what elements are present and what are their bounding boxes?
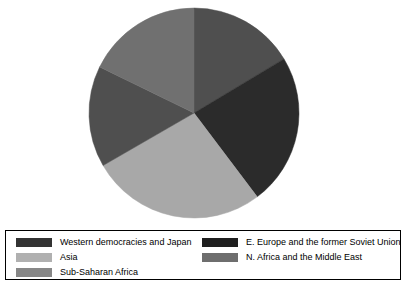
legend-label-e-europe-and-the-former-soviet-union: E. Europe and the former Soviet Union xyxy=(246,237,401,247)
legend-swatch-n-africa-and-the-middle-east xyxy=(202,253,238,262)
chart-legend: Western democracies and Japan Asia Sub-S… xyxy=(5,230,401,280)
legend-item-asia[interactable]: Asia xyxy=(16,250,191,264)
legend-swatch-western-democracies-and-japan xyxy=(16,238,52,247)
legend-item-n-africa-and-the-middle-east[interactable]: N. Africa and the Middle East xyxy=(202,250,401,264)
legend-label-western-democracies-and-japan: Western democracies and Japan xyxy=(60,237,191,247)
legend-swatch-e-europe-and-the-former-soviet-union xyxy=(202,238,238,247)
legend-label-n-africa-and-the-middle-east: N. Africa and the Middle East xyxy=(246,252,362,262)
pie-chart-plot-area xyxy=(0,0,408,224)
pie-chart-svg xyxy=(0,0,408,224)
legend-swatch-asia xyxy=(16,253,52,262)
pie-chart-figure: Western democracies and Japan Asia Sub-S… xyxy=(0,0,408,288)
legend-label-sub-saharan-africa: Sub-Saharan Africa xyxy=(60,267,138,277)
legend-column-left: Western democracies and Japan Asia Sub-S… xyxy=(16,235,191,280)
legend-column-right: E. Europe and the former Soviet Union N.… xyxy=(202,235,401,265)
legend-label-asia: Asia xyxy=(60,252,78,262)
legend-swatch-sub-saharan-africa xyxy=(16,268,52,277)
legend-item-western-democracies-and-japan[interactable]: Western democracies and Japan xyxy=(16,235,191,249)
legend-item-e-europe-and-the-former-soviet-union[interactable]: E. Europe and the former Soviet Union xyxy=(202,235,401,249)
legend-item-sub-saharan-africa[interactable]: Sub-Saharan Africa xyxy=(16,265,191,279)
